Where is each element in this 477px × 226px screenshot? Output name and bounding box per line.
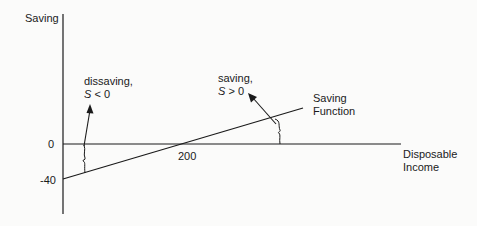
saving-annotation: saving, S > 0	[218, 72, 253, 98]
dissaving-annotation-line1: dissaving,	[84, 75, 133, 88]
saving-brace	[275, 119, 280, 144]
saving-relation: > 0	[225, 85, 244, 97]
saving-arrow-shaft	[253, 98, 276, 124]
x-axis-label-line2: Income	[403, 161, 457, 174]
dissaving-relation: < 0	[91, 88, 110, 100]
diagram-canvas	[0, 0, 477, 226]
saving-function-diagram: Saving 0 -40 200 Disposable Income Savin…	[0, 0, 477, 226]
saving-function-label: Saving Function	[313, 92, 355, 118]
saving-annotation-line1: saving,	[218, 72, 253, 85]
y-axis-label: Saving	[25, 12, 59, 25]
dissaving-brace	[83, 145, 85, 173]
dissaving-arrowhead-icon	[87, 104, 94, 114]
saving-annotation-line2: S > 0	[218, 85, 253, 98]
x-axis-label-line1: Disposable	[403, 148, 457, 161]
x-tick-200: 200	[178, 150, 196, 163]
dissaving-arrow-shaft	[84, 110, 90, 146]
dissaving-annotation: dissaving, S < 0	[84, 75, 133, 101]
x-axis-label: Disposable Income	[403, 148, 457, 174]
saving-function-label-line1: Saving	[313, 92, 355, 105]
dissaving-annotation-line2: S < 0	[84, 88, 133, 101]
saving-function-label-line2: Function	[313, 105, 355, 118]
y-tick-minus-40: -40	[40, 174, 56, 187]
y-tick-0: 0	[48, 138, 54, 151]
